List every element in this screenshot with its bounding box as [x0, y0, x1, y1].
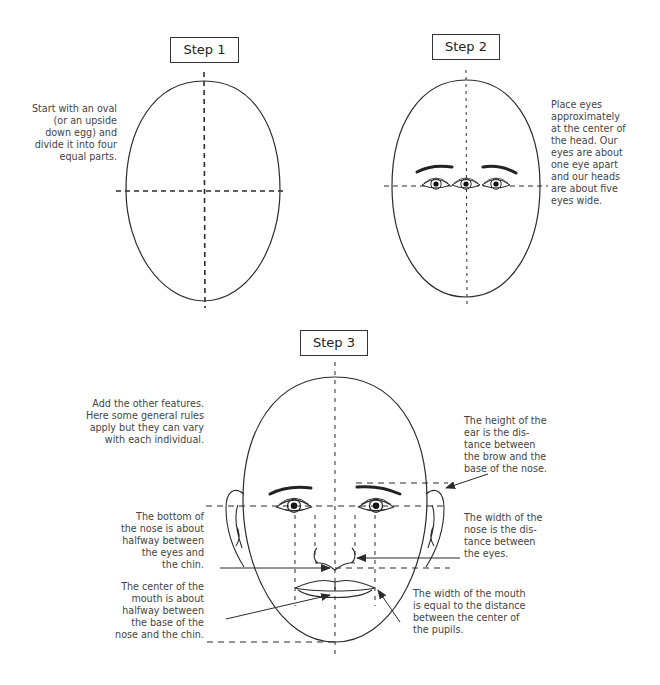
step-3-figure: [206, 362, 488, 655]
left-eye-icon: [422, 178, 450, 189]
ear-height-arrow: [446, 474, 488, 488]
left-eyebrow: [417, 166, 452, 172]
right-ear: [426, 490, 444, 567]
middle-eye-icon: [452, 178, 480, 189]
left-eye-icon: [277, 498, 312, 512]
right-eye-icon: [359, 498, 394, 512]
right-eyebrow: [357, 487, 400, 494]
left-eyebrow: [270, 487, 311, 494]
vertical-guide-line: [204, 72, 205, 308]
head-oval: [126, 81, 280, 301]
face-proportions-drawing: [0, 0, 660, 685]
mouth-center-arrow: [226, 595, 330, 619]
mouth: [295, 580, 375, 597]
step-2-figure: [384, 70, 548, 305]
step-1-figure: [116, 72, 286, 308]
right-eyebrow: [483, 166, 516, 173]
right-eye-icon: [482, 178, 510, 189]
mouth-width-arrow: [378, 590, 400, 622]
left-ear: [226, 490, 244, 567]
